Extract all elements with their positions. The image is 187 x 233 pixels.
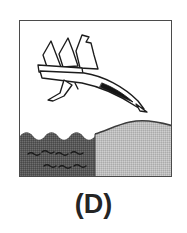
water xyxy=(20,132,95,177)
figure-container: (D) xyxy=(0,0,187,233)
aircraft-pylon xyxy=(75,83,78,89)
illustration-panel xyxy=(19,20,172,177)
scene-svg xyxy=(20,21,172,177)
water-body xyxy=(20,132,95,177)
aircraft-ventral-fin xyxy=(48,80,72,101)
aircraft-second-fin xyxy=(59,38,78,67)
aircraft-far-fin xyxy=(43,41,61,67)
figure-caption: (D) xyxy=(0,184,187,224)
jet-aircraft xyxy=(38,35,147,112)
aircraft-vertical-tail xyxy=(76,35,98,69)
land-hill xyxy=(95,121,172,177)
aircraft-fuselage xyxy=(40,71,144,109)
